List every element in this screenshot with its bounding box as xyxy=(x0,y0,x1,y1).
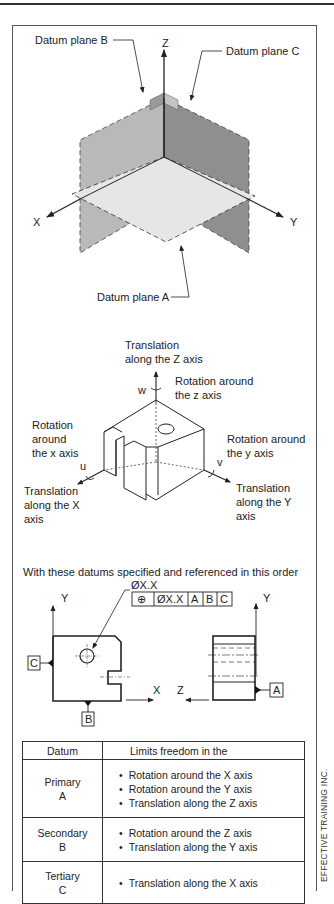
rotation-z-label: Rotation around the z axis xyxy=(175,374,253,402)
fcf-datum-a: A xyxy=(191,592,198,606)
fcf-symbol: ⊕ xyxy=(137,592,146,606)
limits-cell: Rotation around the Z axis Translation a… xyxy=(103,818,305,862)
fcf-datum-b: B xyxy=(206,592,213,606)
symbol-v: v xyxy=(217,455,223,469)
rotation-x-label: Rotation around the x axis xyxy=(32,418,78,460)
datum-a-box: A xyxy=(273,683,280,697)
datum-cell: Primary A xyxy=(23,760,103,818)
translation-x-label: Translation along the X axis xyxy=(24,484,80,526)
datum-c-box: C xyxy=(30,656,38,670)
credit-text: EFFECTIVE TRAINING INC. xyxy=(319,768,329,882)
x-axis-arrow xyxy=(47,198,82,217)
datum-freedom-table: Datum Limits freedom in the Primary A Ro… xyxy=(22,741,305,904)
fcf-tolerance: ØX.X xyxy=(157,592,183,606)
symbol-w: w xyxy=(138,383,146,397)
header-datum: Datum xyxy=(23,742,103,760)
y-axis-arrow xyxy=(246,198,283,217)
table-row: Secondary B Rotation around the Z axis T… xyxy=(23,818,305,862)
leader-plane-b xyxy=(113,40,143,92)
side-view-z-label: Z xyxy=(177,683,184,697)
fcf-datum-c: C xyxy=(220,592,228,606)
datum-plane-c-label: Datum plane C xyxy=(226,44,299,58)
leader-plane-a xyxy=(171,246,189,297)
z-axis-label: Z xyxy=(162,36,169,50)
limits-cell: Rotation around the X axis Rotation arou… xyxy=(103,760,305,818)
y-axis-label: Y xyxy=(290,215,297,229)
table-row: Tertiary C Translation along the X axis xyxy=(23,862,305,904)
datum-cell: Tertiary C xyxy=(23,862,103,904)
leader-plane-c xyxy=(191,51,222,100)
translation-z-label: Translation along the Z axis xyxy=(125,338,203,366)
front-view-y-label: Y xyxy=(61,591,68,605)
drawing-caption: With these datums specified and referenc… xyxy=(23,565,298,579)
translation-y-label: Translation along the Y axis xyxy=(236,481,291,523)
rotation-y-label: Rotation around the y axis xyxy=(227,432,305,460)
table-header-row: Datum Limits freedom in the xyxy=(23,742,305,760)
datum-plane-a-label: Datum plane A xyxy=(97,290,169,304)
dof-y-arrow xyxy=(204,470,230,482)
hole-callout: ØX.X xyxy=(131,578,157,592)
side-view-outline xyxy=(213,636,255,700)
datum-planes-figure xyxy=(47,40,283,297)
datum-cell: Secondary B xyxy=(23,818,103,862)
datum-b-box: B xyxy=(85,712,92,726)
header-limits: Limits freedom in the xyxy=(103,742,305,760)
datum-plane-b-label: Datum plane B xyxy=(35,33,108,47)
table-row: Primary A Rotation around the X axis Rot… xyxy=(23,760,305,818)
symbol-u: u xyxy=(80,459,86,473)
orthographic-drawing xyxy=(28,590,283,726)
side-view-y-label: Y xyxy=(263,591,270,605)
front-view-x-label: X xyxy=(153,683,160,697)
limits-cell: Translation along the X axis xyxy=(103,862,305,904)
x-axis-label: X xyxy=(33,215,40,229)
